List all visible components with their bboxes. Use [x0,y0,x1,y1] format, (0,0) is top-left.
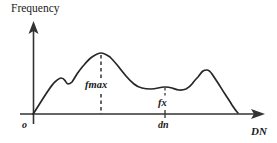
dn-axis-tick-label: dn [158,120,169,130]
y-axis-title: Frequency [11,3,60,15]
fx-annotation-label: fx [158,98,167,109]
chart-canvas [0,0,277,143]
origin-label: o [22,120,27,130]
frequency-curve [33,53,238,114]
x-axis-title: DN [251,126,267,137]
fmax-annotation-label: fmax [85,80,107,91]
frequency-distribution-figure: Frequency DN o fmax fx dn [0,0,277,143]
